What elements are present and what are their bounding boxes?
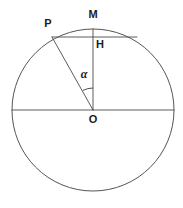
label-point-p: P [44, 17, 51, 29]
figure-background [0, 0, 183, 208]
label-angle-alpha: α [81, 67, 88, 81]
geometry-figure: M P H O α [0, 0, 183, 208]
label-point-o: O [89, 113, 98, 125]
geometry-canvas: M P H O α [0, 0, 183, 208]
label-point-h: H [96, 38, 104, 50]
label-point-m: M [88, 8, 97, 20]
